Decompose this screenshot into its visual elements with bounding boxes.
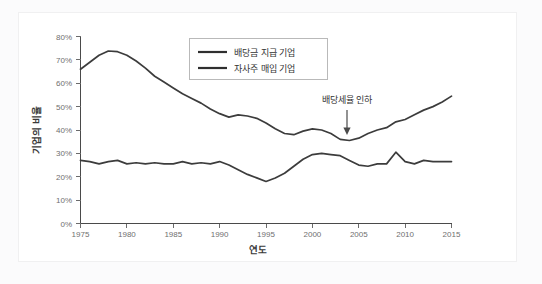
x-tick-label-1990: 1990 — [211, 230, 229, 239]
y-tick-label-60: 60% — [56, 79, 72, 88]
annotation-label: 배당세율 인하 — [322, 95, 374, 105]
page-root: 0% 10% 20% 30% 40% 50% 60% 70% 80% 1975 … — [0, 0, 542, 284]
x-axis-ticks: 1975 1980 1985 1990 1995 2000 2005 2010 … — [72, 224, 461, 240]
x-axis-title: 연도 — [249, 244, 267, 255]
x-tick-label-2000: 2000 — [304, 230, 322, 239]
x-tick-label-1985: 1985 — [164, 230, 182, 239]
y-axis-ticks: 0% 10% 20% 30% 40% 50% 60% 70% 80% — [56, 33, 81, 229]
series-line-share-repurchasers — [81, 152, 452, 181]
legend-label-1: 자사주 매입 기업 — [234, 63, 295, 74]
x-tick-label-1980: 1980 — [118, 230, 136, 239]
y-tick-label-80: 80% — [56, 33, 72, 42]
chart-figure: 0% 10% 20% 30% 40% 50% 60% 70% 80% 1975 … — [0, 0, 542, 284]
annotation-arrow-head — [343, 128, 350, 136]
y-tick-label-0: 0% — [60, 220, 72, 229]
y-axis-title: 기업의 비율 — [31, 106, 42, 154]
x-tick-label-2005: 2005 — [350, 230, 368, 239]
y-tick-label-30: 30% — [56, 149, 72, 158]
x-tick-label-2010: 2010 — [396, 230, 414, 239]
y-tick-label-70: 70% — [56, 56, 72, 65]
x-tick-label-1975: 1975 — [72, 230, 90, 239]
x-tick-label-1995: 1995 — [257, 230, 275, 239]
y-tick-label-50: 50% — [56, 103, 72, 112]
legend: 배당금 지급 기업 자사주 매입 기업 — [190, 39, 328, 80]
legend-label-0: 배당금 지급 기업 — [234, 48, 295, 58]
x-tick-label-2015: 2015 — [443, 230, 461, 239]
annotation-dividend-tax-cut: 배당세율 인하 — [322, 95, 374, 135]
y-tick-label-40: 40% — [56, 126, 72, 135]
y-tick-label-10: 10% — [56, 196, 72, 205]
y-tick-label-20: 20% — [56, 173, 72, 182]
